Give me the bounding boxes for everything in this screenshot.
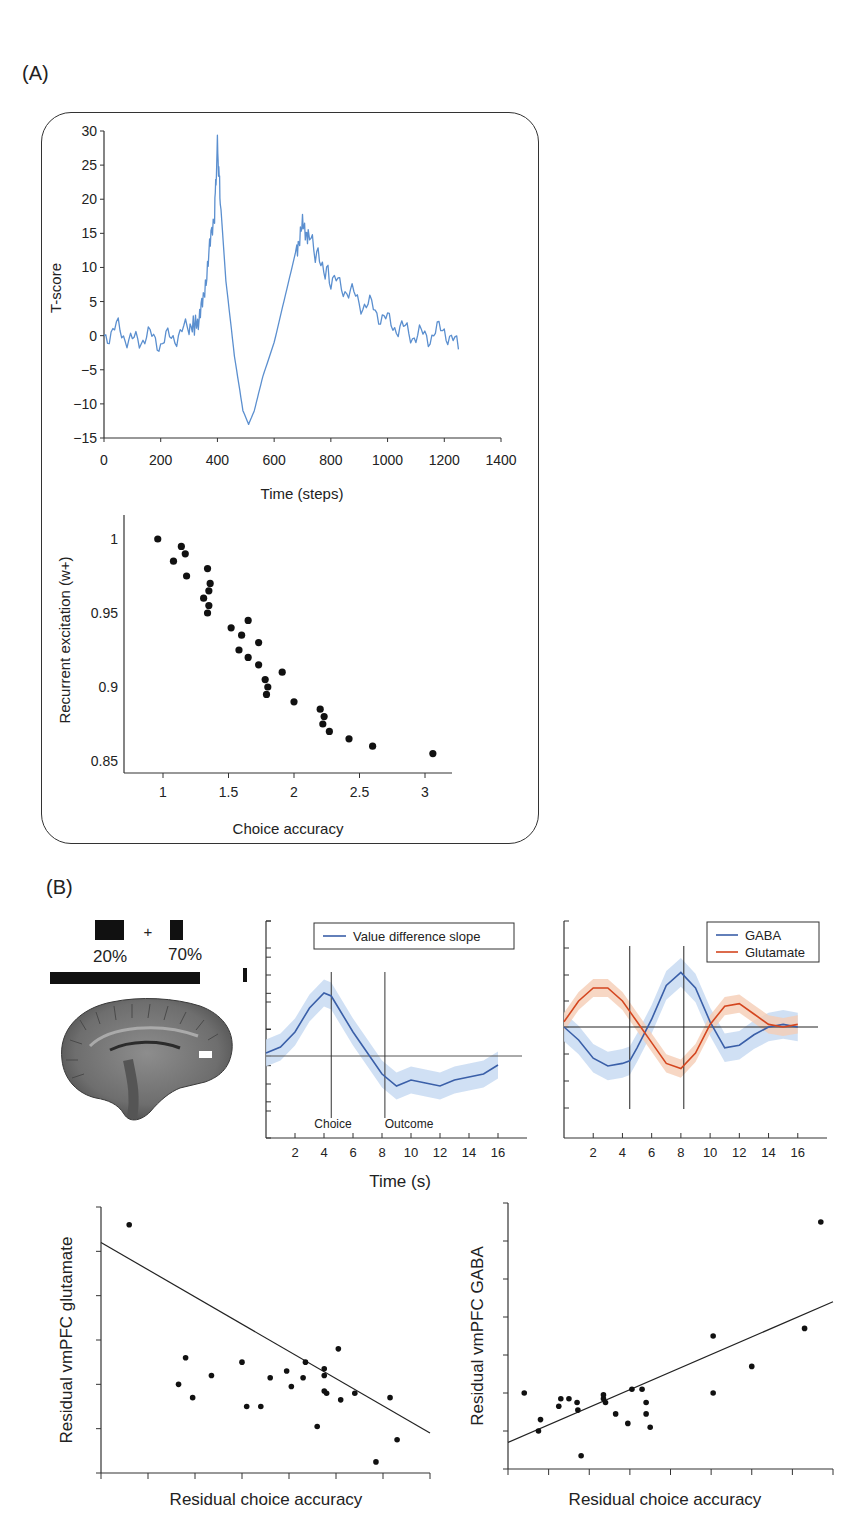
svg-text:6: 6 — [648, 1145, 655, 1160]
svg-text:30: 30 — [81, 123, 97, 139]
gaba-xlabel: Residual choice accuracy — [569, 1490, 762, 1509]
svg-text:0.95: 0.95 — [91, 605, 118, 621]
a-scatter-points — [154, 535, 436, 757]
svg-text:800: 800 — [319, 452, 343, 468]
svg-text:16: 16 — [491, 1145, 505, 1160]
svg-text:1000: 1000 — [372, 452, 403, 468]
svg-text:15: 15 — [81, 225, 97, 241]
svg-text:10: 10 — [404, 1145, 418, 1160]
svg-text:400: 400 — [206, 452, 230, 468]
svg-text:0: 0 — [100, 452, 108, 468]
svg-text:600: 600 — [262, 452, 286, 468]
small-scale-bar — [243, 968, 247, 982]
svg-text:8: 8 — [378, 1145, 385, 1160]
vds-legend-label: Value difference slope — [353, 929, 480, 944]
a-line-chart: 302520151050−5−10−15 0200400600800100012… — [47, 123, 517, 502]
svg-text:200: 200 — [149, 452, 173, 468]
b-gaba-scatter: Residual vmPFC GABA Residual choice accu… — [468, 1203, 833, 1509]
svg-text:4: 4 — [619, 1145, 626, 1160]
svg-text:12: 12 — [433, 1145, 447, 1160]
b-value-difference-chart: 246810121416 Value difference slope Choi… — [266, 921, 527, 1160]
b-time-xlabel: Time (s) — [369, 1172, 431, 1191]
a-line-xlabel: Time (steps) — [261, 485, 344, 502]
a-line-ylabel: T-score — [47, 263, 64, 313]
t-score-line — [104, 135, 458, 424]
gaba-scatter-points — [521, 1219, 823, 1458]
a-line-y-ticks: 302520151050−5−10−15 — [73, 123, 104, 446]
gaba-legend-label: GABA — [745, 928, 781, 943]
plus-sign: + — [144, 923, 153, 940]
vmpfc-roi-marker — [199, 1051, 212, 1058]
svg-text:−15: −15 — [73, 430, 97, 446]
svg-text:−10: −10 — [73, 396, 97, 412]
scale-bar — [50, 972, 200, 984]
glutamate-legend-label: Glutamate — [745, 945, 805, 960]
svg-text:10: 10 — [703, 1145, 717, 1160]
bar-20pct — [95, 920, 124, 940]
svg-text:4: 4 — [320, 1145, 327, 1160]
svg-text:2: 2 — [590, 1145, 597, 1160]
stimulus-schematic: + 20% 70% — [50, 920, 247, 984]
svg-text:14: 14 — [462, 1145, 476, 1160]
b-glutamate-scatter: Residual vmPFC glutamate Residual choice… — [57, 1207, 430, 1509]
svg-text:5: 5 — [89, 294, 97, 310]
a-scatter-ylabel: Recurrent excitation (w+) — [56, 556, 73, 723]
a-scatter-x-ticks: 11.522.53 — [159, 773, 429, 800]
svg-text:1: 1 — [110, 531, 118, 547]
svg-text:12: 12 — [732, 1145, 746, 1160]
svg-text:0: 0 — [89, 328, 97, 344]
svg-text:1400: 1400 — [485, 452, 516, 468]
svg-text:1200: 1200 — [429, 452, 460, 468]
gaba-ylabel: Residual vmPFC GABA — [468, 1246, 487, 1426]
b-gaba-glutamate-chart: 246810121416 GABA Glutamate — [564, 921, 827, 1160]
glutamate-ylabel: Residual vmPFC glutamate — [57, 1237, 76, 1444]
svg-text:0.85: 0.85 — [91, 753, 118, 769]
a-scatter-xlabel: Choice accuracy — [233, 820, 344, 837]
svg-text:2: 2 — [290, 784, 298, 800]
svg-text:10: 10 — [81, 259, 97, 275]
svg-text:0.9: 0.9 — [99, 679, 119, 695]
svg-text:−5: −5 — [81, 362, 97, 378]
vds-confidence-band — [266, 980, 498, 1100]
svg-text:8: 8 — [677, 1145, 684, 1160]
pct-70-label: 70% — [168, 945, 202, 964]
svg-text:25: 25 — [81, 157, 97, 173]
choice-annotation: Choice — [314, 1117, 352, 1131]
brain-sagittal-image — [62, 999, 233, 1120]
gaba-fit-line — [508, 1302, 833, 1443]
glutamate-fit-line — [101, 1242, 430, 1433]
bar-70pct — [170, 920, 183, 940]
svg-text:3: 3 — [421, 784, 429, 800]
svg-text:14: 14 — [761, 1145, 775, 1160]
glutamate-scatter-points — [126, 1222, 400, 1465]
pct-20-label: 20% — [93, 947, 127, 966]
svg-text:2: 2 — [291, 1145, 298, 1160]
svg-text:1.5: 1.5 — [219, 784, 239, 800]
figure-canvas: 302520151050−5−10−15 0200400600800100012… — [0, 0, 864, 1530]
svg-text:6: 6 — [349, 1145, 356, 1160]
svg-text:1: 1 — [159, 784, 167, 800]
outcome-annotation: Outcome — [385, 1117, 434, 1131]
svg-text:16: 16 — [791, 1145, 805, 1160]
a-line-x-ticks: 0200400600800100012001400 — [100, 438, 517, 468]
svg-text:2.5: 2.5 — [350, 784, 370, 800]
svg-text:20: 20 — [81, 191, 97, 207]
glutamate-xlabel: Residual choice accuracy — [170, 1490, 363, 1509]
a-scatter-y-ticks: 0.850.90.951 — [91, 531, 118, 769]
a-scatter-chart: 0.850.90.951 11.522.53 Recurrent excitat… — [56, 515, 452, 837]
